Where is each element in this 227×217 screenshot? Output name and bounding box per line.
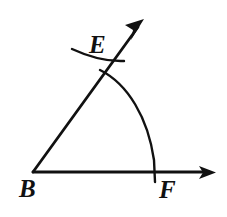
diagonal-ray-BE [33, 27, 138, 172]
vertex-label-b: B [19, 176, 36, 201]
diagonal-ray-arrowhead-icon [125, 19, 144, 40]
construction-arc-EF [100, 70, 155, 182]
geometry-diagram: B E F [0, 0, 227, 217]
point-label-e: E [89, 32, 106, 57]
point-label-f: F [159, 177, 176, 202]
